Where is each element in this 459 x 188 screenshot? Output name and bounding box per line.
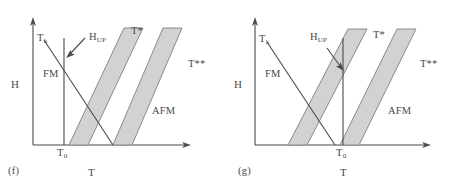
panel-g-region-afm: AFM: [388, 106, 411, 117]
phase-diagram-panel-g: H T FM AFM Tk HUP T* T** T0 (g): [230, 0, 459, 188]
panel-g-label-t-star: T*: [373, 30, 385, 41]
panel-f-label-t-k: Tk: [37, 33, 47, 45]
figure-canvas: H T FM AFM Tk HUP T* T** T0 (f): [0, 0, 459, 188]
panel-f-label-t-star: T*: [131, 26, 143, 37]
panel-f-label-t-double-star: T**: [188, 59, 206, 70]
panel-f-region-afm: AFM: [152, 106, 175, 117]
panel-f-x-axis-label: T: [88, 167, 95, 178]
panel-g-tick-t0: T0: [336, 148, 346, 160]
panel-f-tag: (f): [8, 166, 19, 177]
panel-g-label-t-k: Tk: [259, 34, 269, 46]
panel-f-label-h-up: HUP: [89, 32, 106, 44]
panel-f-y-axis-label: H: [11, 79, 19, 90]
panel-g-y-axis-label: H: [234, 79, 242, 90]
panel-g-region-fm: FM: [265, 69, 281, 80]
h-up-annotation-arrow: [66, 38, 85, 58]
panel-g-x-axis-label: T: [340, 167, 347, 178]
panel-g-label-h-up: HUP: [310, 32, 327, 44]
panel-g-label-t-double-star: T**: [420, 59, 438, 70]
panel-f-region-fm: FM: [43, 69, 59, 80]
panel-g-tag: (g): [238, 166, 251, 177]
panel-f-plot: [0, 0, 229, 188]
panel-f-tick-t0: T0: [57, 148, 67, 160]
phase-diagram-panel-f: H T FM AFM Tk HUP T* T** T0 (f): [0, 0, 229, 188]
